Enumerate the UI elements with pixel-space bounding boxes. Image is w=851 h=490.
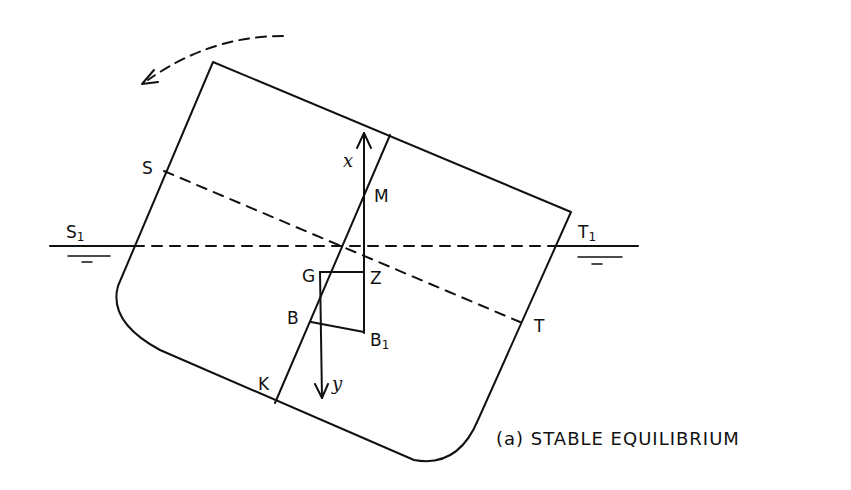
label-y-axis: y bbox=[332, 375, 342, 393]
label-M: M bbox=[374, 188, 389, 205]
figure-caption: (a) STABLE EQUILIBRIUM bbox=[496, 428, 740, 449]
y-axis bbox=[320, 272, 322, 398]
label-S1: S1 bbox=[66, 224, 84, 243]
heel-rotation-arc bbox=[148, 36, 283, 80]
label-T: T bbox=[534, 318, 544, 335]
label-S: S bbox=[142, 160, 153, 177]
label-B1: B1 bbox=[370, 332, 389, 351]
label-B: B bbox=[287, 310, 299, 327]
hull-outline bbox=[116, 62, 571, 461]
b-b1-line bbox=[311, 322, 364, 332]
label-G: G bbox=[302, 268, 315, 285]
label-T1: T1 bbox=[578, 224, 596, 243]
stability-diagram bbox=[0, 0, 851, 490]
label-x-axis: x bbox=[343, 152, 353, 170]
heel-rotation-arrowhead-icon bbox=[142, 70, 158, 84]
label-Z: Z bbox=[370, 270, 382, 287]
label-K: K bbox=[258, 376, 269, 393]
